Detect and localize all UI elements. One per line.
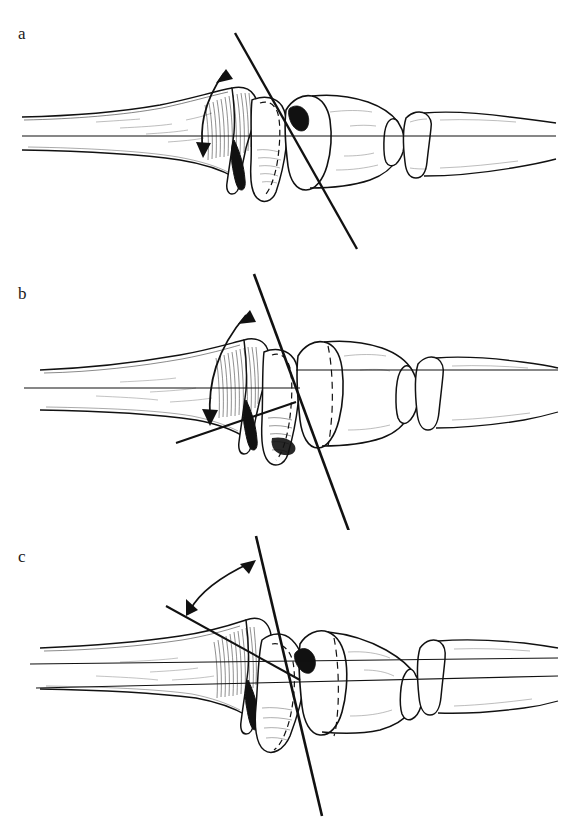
angle-arc-arrowhead-lower	[196, 142, 211, 158]
panel-b: b	[0, 260, 563, 520]
proximal-phalanx-head	[384, 119, 405, 166]
middle-phalanx-texture	[452, 366, 530, 420]
middle-phalanx-proximal-head	[418, 640, 446, 715]
proximal-phalanx-texture	[348, 652, 394, 716]
middle-phalanx-upper-cortex	[424, 112, 556, 123]
figure-root: a	[0, 0, 563, 830]
panel-b-drawing	[0, 260, 563, 530]
panel-c: c	[0, 520, 563, 830]
middle-phalanx-proximal-head	[416, 357, 444, 430]
panel-a: a	[0, 0, 563, 260]
middle-phalanx-lower-cortex	[424, 159, 556, 176]
proximal-phalanx-base	[299, 631, 347, 735]
panel-c-drawing	[0, 520, 563, 830]
proximal-phalanx-base	[297, 342, 343, 448]
angle-arc	[190, 563, 250, 610]
proximal-phalanx-texture	[330, 111, 378, 171]
middle-phalanx-upper-cortex	[436, 357, 558, 368]
metacarpal-lower-cortex	[40, 689, 248, 716]
proximal-phalanx-texture	[344, 355, 390, 431]
metacarpal-shaft-stipple	[96, 658, 214, 680]
middle-phalanx-proximal-head	[404, 112, 432, 178]
angle-arc	[210, 315, 246, 418]
volar-plate-outline	[251, 97, 288, 201]
angle-arc-arrowhead-lower	[202, 409, 218, 426]
middle-phalanx-upper-cortex	[438, 640, 558, 648]
panel-a-drawing	[0, 0, 563, 260]
metacarpal-shaft-stipple	[96, 378, 212, 402]
angle-arc-arrowhead-upper	[238, 310, 256, 324]
metacarpal-upper-cortex	[22, 88, 232, 117]
metacarpal-shaft-stipple	[96, 113, 212, 142]
angle-arc	[202, 73, 224, 152]
angle-arc-arrowhead-upper	[216, 69, 233, 83]
